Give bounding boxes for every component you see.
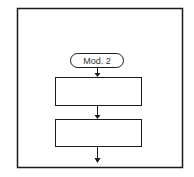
- flowchart-diagram: Mod. 2: [0, 0, 194, 177]
- arrow-2: [95, 106, 101, 119]
- process-box-1: [56, 78, 142, 106]
- terminal-label: Mod. 2: [83, 56, 111, 66]
- arrow-3: [95, 147, 101, 163]
- arrow-1: [95, 67, 101, 77]
- process-box-2: [56, 120, 142, 147]
- terminal-node: Mod. 2: [71, 54, 124, 68]
